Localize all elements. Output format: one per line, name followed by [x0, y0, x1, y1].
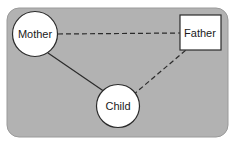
child-label: Child	[105, 100, 130, 112]
node-father[interactable]: Father	[180, 15, 221, 50]
mother-label: Mother	[18, 28, 53, 40]
family-relationship-diagram: Mother Father Child	[0, 0, 235, 145]
diagram-root: Mother Father Child	[0, 0, 235, 145]
father-label: Father	[184, 27, 216, 39]
node-child[interactable]: Child	[97, 85, 140, 128]
node-mother[interactable]: Mother	[13, 12, 58, 57]
